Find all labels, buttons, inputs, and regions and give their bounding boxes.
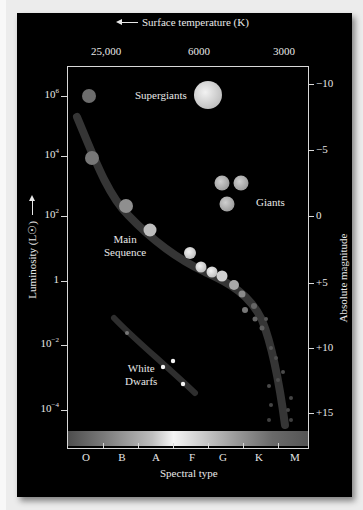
ms-star xyxy=(207,267,218,278)
spectral-type-k: K xyxy=(252,451,266,463)
ms-star xyxy=(281,370,285,374)
left-tick xyxy=(61,96,67,97)
bottom-axis-title: Spectral type xyxy=(160,467,218,479)
ms-star xyxy=(229,280,239,290)
right-tick xyxy=(308,348,314,349)
giant-star xyxy=(220,197,235,212)
spectral-type-g: G xyxy=(216,451,230,463)
ms-star xyxy=(267,418,271,422)
ms-star xyxy=(85,151,99,165)
ms-star xyxy=(119,199,133,213)
ms-star xyxy=(196,262,207,273)
ms-star xyxy=(269,403,273,407)
left-tick-label-1e6: 106 xyxy=(19,87,59,100)
spectral-type-b: B xyxy=(115,451,129,463)
supergiant-star-blue xyxy=(82,89,96,103)
ms-star xyxy=(184,247,196,259)
label-giants: Giants xyxy=(256,196,285,208)
up-arrow-icon xyxy=(29,195,37,215)
ms-star xyxy=(289,418,293,422)
right-tick-label: +15 xyxy=(316,406,333,418)
left-axis-title: Luminosity (L☉) xyxy=(26,187,40,307)
ms-star xyxy=(251,303,257,309)
supergiant-star-red xyxy=(194,81,222,109)
ms-star xyxy=(239,291,246,298)
spectral-type-o: O xyxy=(79,451,93,463)
ms-star xyxy=(217,271,228,282)
left-tick-label-1e4: 104 xyxy=(19,147,59,160)
bottom-tick xyxy=(278,443,279,448)
giant-star xyxy=(215,176,230,191)
white-dwarf-star xyxy=(181,382,185,386)
left-tick xyxy=(61,345,67,346)
right-tick-label: −5 xyxy=(316,143,328,155)
hr-plot xyxy=(0,0,363,510)
ms-star xyxy=(286,408,290,412)
right-tick xyxy=(308,150,314,151)
left-tick-label-1e-4: 10−4 xyxy=(19,401,59,414)
white-dwarf-star xyxy=(125,331,129,335)
right-axis-title: Absolute magnitude xyxy=(337,223,351,333)
left-tick xyxy=(61,156,67,157)
right-tick-label: +10 xyxy=(316,341,333,353)
ms-star xyxy=(276,378,280,382)
bottom-tick xyxy=(173,443,174,448)
left-tick xyxy=(61,410,67,411)
ms-star xyxy=(253,317,258,322)
label-main-sequence: Main Sequence xyxy=(104,233,146,259)
bottom-tick xyxy=(103,443,104,448)
left-tick xyxy=(61,281,67,282)
left-tick xyxy=(61,216,67,217)
right-tick xyxy=(308,283,314,284)
right-tick-label: −10 xyxy=(316,77,333,89)
bottom-tick xyxy=(208,443,209,448)
ms-star xyxy=(267,384,271,388)
right-tick-label: 0 xyxy=(316,209,322,221)
ms-star xyxy=(289,396,293,400)
bottom-tick xyxy=(243,443,244,448)
ms-star xyxy=(264,317,268,321)
left-tick-label-1e-2: 10−2 xyxy=(19,336,59,349)
ms-star xyxy=(269,346,273,350)
giant-star xyxy=(234,176,249,191)
right-tick xyxy=(308,84,314,85)
ms-star xyxy=(242,307,248,313)
spectral-type-a: A xyxy=(149,451,163,463)
white-dwarf-star xyxy=(161,365,165,369)
right-tick-label: +5 xyxy=(316,276,328,288)
white-dwarf-star xyxy=(171,359,175,363)
label-supergiants: Supergiants xyxy=(135,89,187,101)
ms-star xyxy=(260,326,265,331)
right-tick xyxy=(308,413,314,414)
ms-star xyxy=(274,356,278,360)
spectral-type-m: M xyxy=(288,451,302,463)
bottom-tick xyxy=(138,443,139,448)
label-white-dwarfs: White Dwarfs xyxy=(125,362,157,388)
spectral-type-f: F xyxy=(185,451,199,463)
right-tick xyxy=(308,216,314,217)
